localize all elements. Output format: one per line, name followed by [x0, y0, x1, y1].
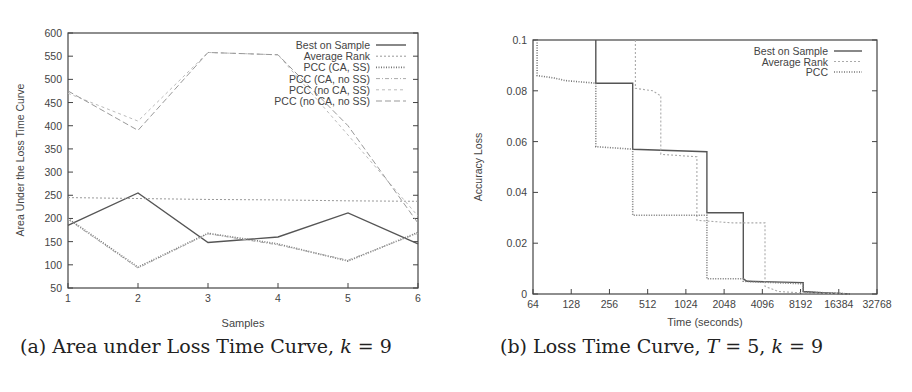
caption-b-prefix: (b) Loss Time Curve,: [500, 335, 707, 357]
chart-a-y-axis-label: Area Under the Loss Time Curve: [14, 83, 26, 236]
chart-b: 00.020.040.060.080.164128256512102420484…: [456, 0, 912, 340]
legend-label: Average Rank: [304, 50, 371, 62]
series-line: [596, 40, 850, 294]
y-tick-label: 0.1: [512, 34, 527, 46]
y-tick-label: 350: [44, 143, 62, 155]
series-line: [537, 40, 850, 294]
caption-a-variable: k: [340, 335, 352, 357]
chart-a-legend: Best on SampleAverage RankPCC (CA, SS)PC…: [274, 39, 406, 107]
x-tick-label: 16384: [824, 298, 853, 310]
caption-b-suffix: = 9: [783, 335, 823, 357]
y-tick-label: 250: [44, 189, 62, 201]
y-tick-label: 150: [44, 236, 62, 248]
y-tick-label: 450: [44, 97, 62, 109]
x-tick-label: 3: [205, 292, 211, 304]
series-line: [68, 219, 418, 268]
caption-a-prefix: (a) Area under Loss Time Curve,: [20, 335, 340, 357]
caption-b-mid: = 5,: [719, 335, 771, 357]
x-tick-label: 512: [639, 298, 657, 310]
legend-label: PCC (CA, no SS): [289, 73, 370, 85]
y-tick-label: 50: [50, 282, 62, 294]
legend-label: Best on Sample: [296, 39, 370, 51]
x-tick-label: 64: [527, 298, 539, 310]
x-tick-label: 2048: [712, 298, 736, 310]
legend-label: PCC (no CA, no SS): [274, 95, 370, 107]
x-tick-label: 1024: [674, 298, 698, 310]
legend-label: PCC (no CA, SS): [289, 84, 370, 96]
chart-b-x-axis-label: Time (seconds): [667, 316, 742, 328]
y-tick-label: 100: [44, 259, 62, 271]
x-tick-label: 2: [135, 292, 141, 304]
x-tick-label: 32768: [862, 298, 891, 310]
y-tick-label: 600: [44, 27, 62, 39]
x-tick-label: 8192: [789, 298, 813, 310]
chart-a-panel: 5010015020025030035040045050055060012345…: [0, 0, 456, 392]
y-tick-label: 550: [44, 50, 62, 62]
x-tick-label: 4: [275, 292, 281, 304]
y-tick-label: 200: [44, 212, 62, 224]
chart-a: 5010015020025030035040045050055060012345…: [0, 0, 456, 340]
chart-b-legend: Best on SampleAverage RankPCC: [754, 45, 862, 78]
chart-b-panel: 00.020.040.060.080.164128256512102420484…: [456, 0, 912, 392]
chart-b-caption: (b) Loss Time Curve, T = 5, k = 9: [500, 335, 823, 357]
caption-b-variable-k: k: [771, 335, 783, 357]
series-line: [68, 218, 418, 267]
x-tick-label: 1: [65, 292, 71, 304]
x-tick-label: 4096: [751, 298, 775, 310]
y-tick-label: 500: [44, 73, 62, 85]
x-tick-label: 256: [601, 298, 619, 310]
chart-b-plot-frame: [533, 40, 877, 294]
chart-b-y-axis-label: Accuracy Loss: [472, 133, 484, 201]
y-tick-label: 300: [44, 166, 62, 178]
legend-label: PCC: [806, 66, 829, 78]
chart-a-caption: (a) Area under Loss Time Curve, k = 9: [20, 335, 392, 357]
caption-a-suffix: = 9: [352, 335, 392, 357]
y-tick-label: 0.02: [507, 237, 528, 249]
chart-a-x-axis-label: Samples: [222, 317, 265, 329]
legend-label: PCC (CA, SS): [303, 61, 370, 73]
y-tick-label: 0.08: [507, 85, 528, 97]
y-tick-label: 400: [44, 120, 62, 132]
x-tick-label: 6: [415, 292, 421, 304]
x-tick-label: 5: [345, 292, 351, 304]
caption-b-variable-t: T: [707, 335, 720, 357]
y-tick-label: 0.04: [507, 186, 528, 198]
y-tick-label: 0.06: [507, 136, 528, 148]
x-tick-label: 128: [562, 298, 580, 310]
